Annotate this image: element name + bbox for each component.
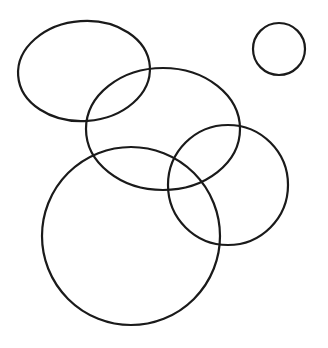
figure-canvas bbox=[0, 0, 328, 348]
circles-drawing bbox=[0, 0, 328, 348]
canvas-background bbox=[0, 0, 328, 348]
